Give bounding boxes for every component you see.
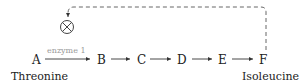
feedback-dashed-line xyxy=(68,7,266,50)
node-e: E xyxy=(218,54,227,66)
node-b: B xyxy=(97,54,106,66)
node-d: D xyxy=(177,54,187,66)
inhibition-icon xyxy=(61,21,74,34)
node-a: A xyxy=(32,54,41,66)
node-f: F xyxy=(259,54,267,66)
node-c: C xyxy=(137,54,146,66)
end-label-isoleucine: Isoleucine xyxy=(242,71,299,82)
start-label-threonine: Threonine xyxy=(11,71,68,82)
enzyme-label: enzyme 1 xyxy=(47,47,86,55)
